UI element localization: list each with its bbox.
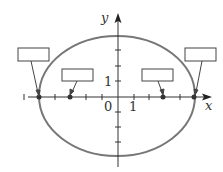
right-vertex-label-box[interactable] [185,48,216,61]
left-focus-label-box[interactable] [62,69,93,81]
right-vertex-point [192,95,197,100]
x-axis-label: x [205,98,213,113]
y-axis-label: y [100,10,109,25]
origin-label: 0 [104,99,112,114]
ellipse [39,36,195,156]
y-unit-label: 1 [104,74,112,89]
x-unit-label: 1 [129,99,137,114]
left-vertex-label-box[interactable] [18,48,49,61]
right-focus-label-box[interactable] [142,69,173,81]
ellipse-diagram: y x 0 1 1 [0,0,223,172]
